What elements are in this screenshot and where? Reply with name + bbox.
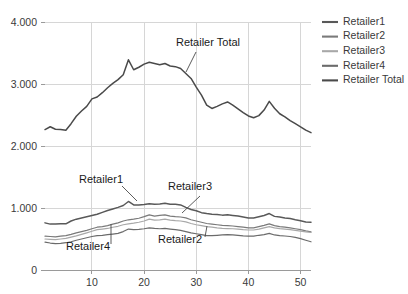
line-chart: 01.0002.0003.0004.000 1020304050 Retaile… [0, 0, 408, 294]
x-tick-label: 20 [138, 276, 150, 288]
legend-label-retailer4: Retailer4 [343, 59, 385, 71]
annotation-label-retailer1: Retailer1 [79, 173, 123, 185]
x-tick-label: 30 [190, 276, 202, 288]
x-axis-tick-labels: 1020304050 [86, 270, 306, 288]
annotation-label-retailer3: Retailer3 [168, 180, 212, 192]
series-line-retailer-total [45, 60, 311, 133]
y-tick-label: 4.000 [11, 16, 37, 28]
y-axis-tick-labels: 01.0002.0003.0004.000 [11, 16, 45, 276]
annotation-leader-line [186, 52, 196, 72]
annotation-label-retailer-total: Retailer Total [176, 36, 240, 48]
x-tick-label: 10 [86, 276, 98, 288]
annotation-label-retailer4: Retailer4 [66, 240, 110, 252]
annotation-label-retailer2: Retailer2 [158, 233, 202, 245]
x-tick-label: 50 [295, 276, 307, 288]
legend-label-retailer3: Retailer3 [343, 44, 385, 56]
legend-label-retailer2: Retailer2 [343, 29, 385, 41]
annotation-leader-line [122, 186, 137, 201]
chart-canvas: 01.0002.0003.0004.000 1020304050 Retaile… [0, 0, 408, 294]
data-series [45, 60, 311, 244]
y-tick-label: 2.000 [11, 140, 37, 152]
y-tick-label: 3.000 [11, 78, 37, 90]
y-tick-label: 1.000 [11, 202, 37, 214]
x-tick-label: 40 [243, 276, 255, 288]
y-tick-label: 0 [31, 264, 37, 276]
legend: Retailer1Retailer2Retailer3Retailer4Reta… [322, 15, 404, 85]
legend-label-retailer-total: Retailer Total [343, 73, 404, 85]
legend-label-retailer1: Retailer1 [343, 15, 385, 27]
